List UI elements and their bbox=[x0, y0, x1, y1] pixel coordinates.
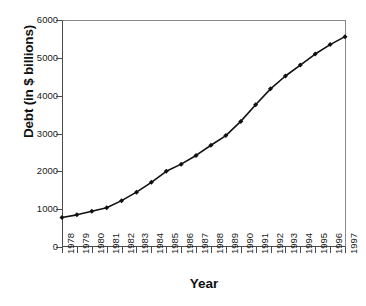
x-axis-tick-label: 1983 bbox=[140, 233, 150, 254]
x-axis-tick-label: 1995 bbox=[319, 233, 329, 254]
x-axis-tick-label: 1988 bbox=[215, 233, 225, 254]
y-axis-tick-mark bbox=[56, 20, 62, 21]
x-axis-tick-mark bbox=[196, 247, 197, 253]
x-axis-tick-label: 1980 bbox=[96, 233, 106, 254]
x-axis-tick-mark bbox=[226, 247, 227, 253]
data-point-marker bbox=[89, 209, 94, 214]
chart-container: Debt (in $ billions) 0100020003000400050… bbox=[0, 0, 366, 306]
y-axis-tick-mark bbox=[56, 96, 62, 97]
x-axis-tick-mark bbox=[77, 247, 78, 253]
data-point-marker bbox=[104, 205, 109, 210]
x-axis-tick-mark bbox=[211, 247, 212, 253]
x-axis-tick-mark bbox=[345, 247, 346, 253]
x-axis-tick-mark bbox=[151, 247, 152, 253]
x-axis-tick-mark bbox=[62, 247, 63, 253]
y-axis-tick-mark bbox=[56, 171, 62, 172]
x-axis-tick-mark bbox=[256, 247, 257, 253]
data-point-marker bbox=[74, 212, 79, 217]
data-series-layer bbox=[0, 0, 366, 306]
x-axis-tick-label: 1984 bbox=[155, 233, 165, 254]
x-axis-tick-label: 1979 bbox=[81, 233, 91, 254]
x-axis-tick-label: 1985 bbox=[170, 233, 180, 254]
x-axis-tick-label: 1982 bbox=[126, 233, 136, 254]
x-axis-tick-label: 1994 bbox=[304, 233, 314, 254]
y-axis-tick-mark bbox=[56, 58, 62, 59]
x-axis-tick-mark bbox=[271, 247, 272, 253]
x-axis-tick-label: 1992 bbox=[275, 233, 285, 254]
x-axis-tick-mark bbox=[136, 247, 137, 253]
x-axis-tick-label: 1986 bbox=[185, 233, 195, 254]
x-axis-tick-mark bbox=[285, 247, 286, 253]
x-axis-tick-mark bbox=[107, 247, 108, 253]
x-axis-tick-label: 1990 bbox=[245, 233, 255, 254]
x-axis-tick-mark bbox=[330, 247, 331, 253]
x-axis-tick-label: 1989 bbox=[230, 233, 240, 254]
x-axis-tick-label: 1987 bbox=[200, 233, 210, 254]
x-axis-tick-label: 1978 bbox=[66, 233, 76, 254]
x-axis-tick-mark bbox=[241, 247, 242, 253]
data-point-marker bbox=[60, 215, 65, 220]
x-axis-tick-mark bbox=[315, 247, 316, 253]
x-axis-tick-mark bbox=[92, 247, 93, 253]
x-axis-tick-label: 1991 bbox=[260, 233, 270, 254]
x-axis-tick-label: 1993 bbox=[289, 233, 299, 254]
x-axis-tick-mark bbox=[181, 247, 182, 253]
x-axis-tick-mark bbox=[166, 247, 167, 253]
debt-line bbox=[62, 37, 345, 218]
x-axis-tick-label: 1997 bbox=[349, 233, 359, 254]
x-axis-tick-mark bbox=[300, 247, 301, 253]
y-axis-tick-mark bbox=[56, 134, 62, 135]
y-axis-tick-mark bbox=[56, 209, 62, 210]
x-axis-tick-label: 1981 bbox=[111, 233, 121, 254]
x-axis-tick-mark bbox=[122, 247, 123, 253]
x-axis-tick-label: 1996 bbox=[334, 233, 344, 254]
x-axis-title: Year bbox=[62, 276, 346, 291]
